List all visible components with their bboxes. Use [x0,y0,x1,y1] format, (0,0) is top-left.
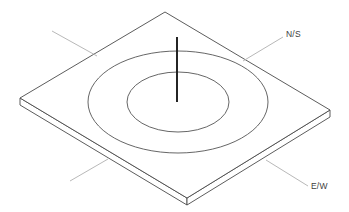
plate-top-face [20,12,330,198]
axis-label-north-south: N/S [286,30,301,39]
axis-label-east-west: E/W [311,182,328,191]
isometric-plate-figure: N/S E/W [0,0,349,212]
leader-line-east-west [266,160,308,186]
leader-line-upper-left [52,31,97,56]
leader-line-north-south [243,37,283,61]
leader-line-lower-left [70,159,108,181]
